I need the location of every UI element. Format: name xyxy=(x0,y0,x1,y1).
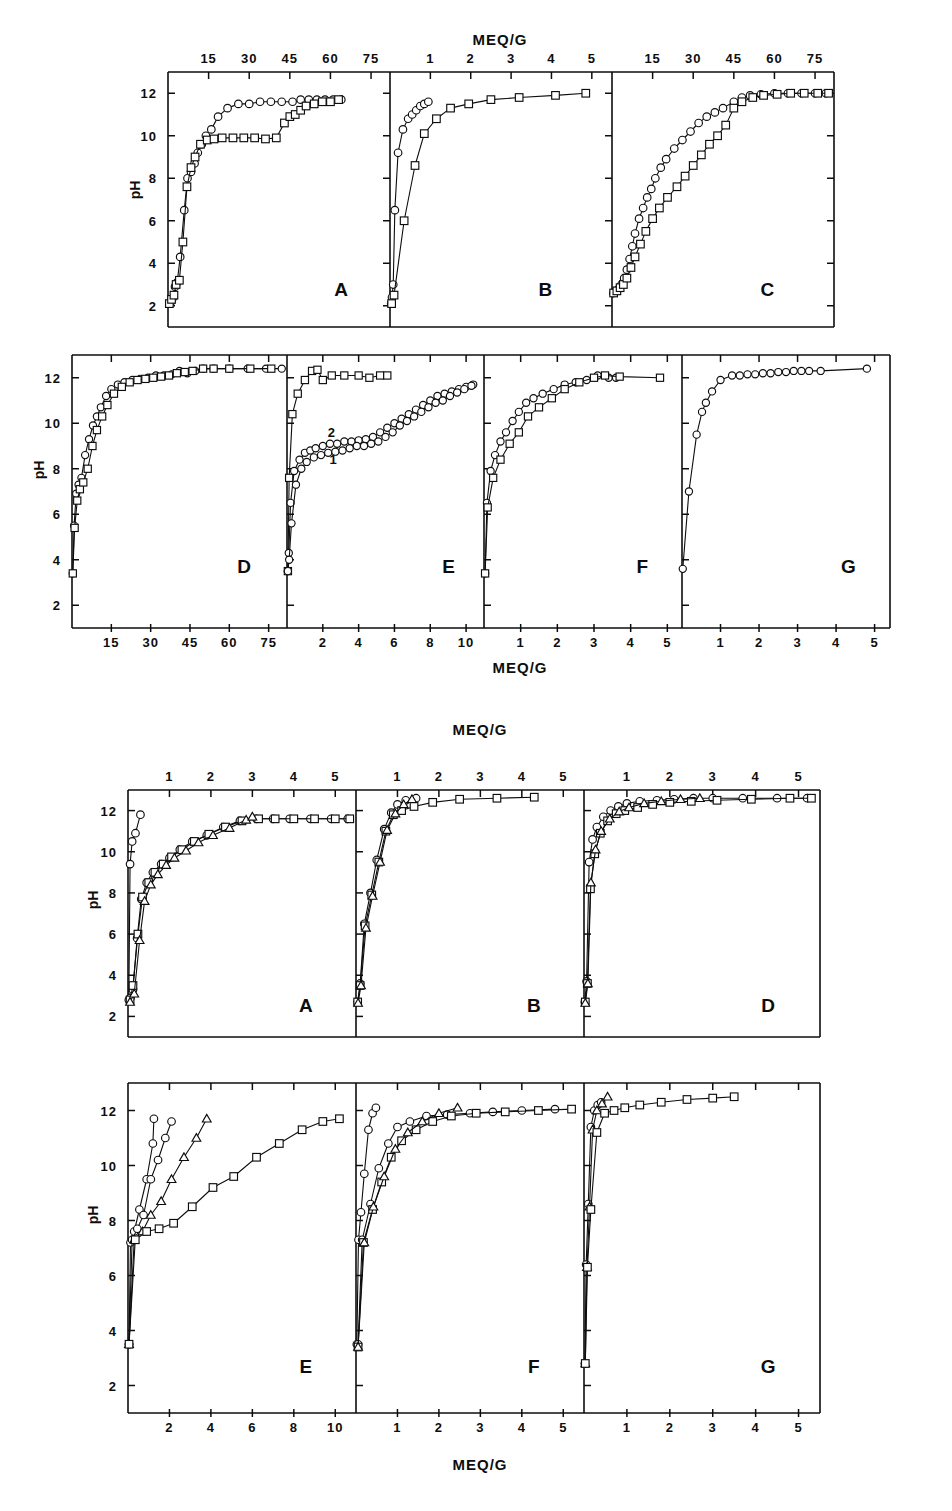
data-point-circle xyxy=(589,836,597,844)
data-point-circle xyxy=(717,376,724,383)
data-point-square xyxy=(593,1129,601,1137)
data-point-circle xyxy=(728,372,735,379)
data-point-square xyxy=(709,1094,717,1102)
data-point-circle xyxy=(711,109,719,117)
data-point-square xyxy=(314,366,321,373)
data-point-square xyxy=(218,134,226,142)
data-point-square xyxy=(429,1118,437,1126)
data-point-circle xyxy=(319,442,326,449)
data-point-square xyxy=(230,1173,238,1181)
data-point-square xyxy=(187,164,195,172)
data-point-circle xyxy=(353,442,360,449)
data-point-circle xyxy=(406,1118,414,1126)
data-point-square xyxy=(302,102,310,110)
data-point-square xyxy=(814,89,822,97)
data-point-square xyxy=(110,390,117,397)
data-point-circle xyxy=(391,206,399,214)
panel-label-D: D xyxy=(237,556,251,577)
data-point-square xyxy=(621,1104,629,1112)
x-tick-label: 2 xyxy=(319,635,327,650)
data-point-circle xyxy=(394,149,402,157)
x-tick-label: 3 xyxy=(476,769,484,784)
panel-label-B: B xyxy=(539,279,553,300)
data-point-square xyxy=(310,100,318,108)
panel-label-A: A xyxy=(334,279,348,300)
data-point-square xyxy=(84,465,91,472)
data-point-circle xyxy=(396,422,403,429)
x-tick-label: 10 xyxy=(458,635,474,650)
y-tick-label: 8 xyxy=(53,462,61,477)
x-tick-label: 1 xyxy=(623,769,631,784)
data-point-square xyxy=(515,94,523,102)
data-point-circle xyxy=(461,386,468,393)
x-tick-label: 5 xyxy=(559,769,567,784)
data-point-square xyxy=(155,1225,163,1233)
panel-label-C: C xyxy=(761,279,775,300)
data-point-square xyxy=(251,134,259,142)
y-tick-label: 2 xyxy=(149,299,157,314)
data-point-circle xyxy=(368,440,375,447)
data-point-square xyxy=(497,456,504,463)
data-point-square xyxy=(311,815,319,823)
data-point-square xyxy=(134,376,141,383)
panel-label-D: D xyxy=(761,995,775,1016)
data-point-square xyxy=(524,413,531,420)
data-point-square xyxy=(199,365,206,372)
data-point-square xyxy=(150,374,157,381)
data-point-square xyxy=(713,796,721,804)
page-background xyxy=(0,0,952,1511)
data-point-square xyxy=(601,372,608,379)
data-point-square xyxy=(656,374,663,381)
x-tick-label: 15 xyxy=(103,635,119,650)
data-point-square xyxy=(210,365,217,372)
x-tick-label: 45 xyxy=(182,635,198,650)
data-point-square xyxy=(74,497,81,504)
data-point-circle xyxy=(150,1115,158,1123)
data-point-square xyxy=(268,365,275,372)
x-tick-label: 30 xyxy=(142,635,158,650)
data-point-square xyxy=(506,440,513,447)
data-point-square xyxy=(346,815,354,823)
data-point-square xyxy=(229,134,237,142)
data-point-circle xyxy=(635,215,643,223)
y-tick-label: 4 xyxy=(149,256,157,271)
y-tick-label: 12 xyxy=(101,804,117,819)
data-point-square xyxy=(552,92,560,100)
data-point-square xyxy=(99,413,106,420)
data-point-square xyxy=(93,426,100,433)
data-point-square xyxy=(808,794,816,802)
data-point-square xyxy=(390,291,398,299)
data-point-circle xyxy=(288,520,295,527)
data-point-square xyxy=(319,376,326,383)
data-point-square xyxy=(530,793,538,801)
data-point-square xyxy=(456,795,464,803)
curve-annotation: 2 xyxy=(328,425,336,440)
x-axis-title-bottom: MEQ/G xyxy=(452,1456,507,1473)
data-point-circle xyxy=(685,488,692,495)
data-point-square xyxy=(328,372,335,379)
data-point-square xyxy=(179,238,187,246)
data-point-square xyxy=(484,504,491,511)
x-tick-label: 5 xyxy=(794,769,802,784)
data-point-circle xyxy=(126,860,134,868)
figure-page: 153045607524681012A12345B1530456075CpHME… xyxy=(0,0,952,1511)
data-point-square xyxy=(689,162,697,170)
x-tick-label: 3 xyxy=(709,1420,717,1435)
data-point-circle xyxy=(162,1134,170,1142)
data-point-circle xyxy=(719,104,727,112)
data-point-square xyxy=(170,291,178,299)
data-point-circle xyxy=(296,456,303,463)
data-point-circle xyxy=(85,436,92,443)
x-tick-label: 1 xyxy=(716,635,724,650)
data-point-circle xyxy=(515,408,522,415)
x-tick-label: 4 xyxy=(355,635,363,650)
data-point-circle xyxy=(736,372,743,379)
data-point-square xyxy=(377,372,384,379)
y-axis-title: pH xyxy=(85,891,101,910)
data-point-square xyxy=(490,474,497,481)
data-point-square xyxy=(76,486,83,493)
data-point-circle xyxy=(291,467,298,474)
data-point-circle xyxy=(317,452,324,459)
data-point-square xyxy=(631,253,639,261)
data-point-square xyxy=(294,390,301,397)
